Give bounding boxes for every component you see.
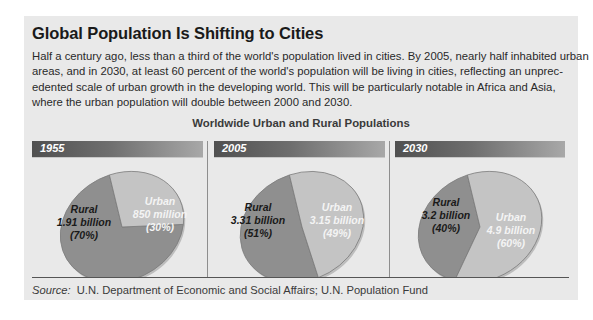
source-note: Source: U.N. Department of Economic and … bbox=[32, 284, 428, 296]
intro-line: Half a century ago, less than a third of… bbox=[32, 49, 577, 64]
pie-label-line: Rural bbox=[245, 201, 273, 213]
source-label: Source: bbox=[32, 284, 71, 296]
intro-paragraph: Half a century ago, less than a third of… bbox=[32, 49, 577, 110]
pie-label-line: (49%) bbox=[323, 227, 352, 239]
pie-label-line: (30%) bbox=[146, 221, 175, 233]
pie-label-line: 3.15 billion bbox=[310, 214, 364, 226]
infographic-panel: Global Population Is Shifting to Cities … bbox=[24, 16, 578, 300]
intro-line: where the urban population will double b… bbox=[32, 95, 577, 110]
pie-label-line: (70%) bbox=[70, 229, 99, 241]
bottom-divider bbox=[32, 277, 569, 278]
pie-chart-2030: Rural3.2 billion(40%)Urban4.9 billion(60… bbox=[395, 141, 569, 277]
pie-label-line: Urban bbox=[496, 211, 526, 223]
source-text: U.N. Department of Economic and Social A… bbox=[77, 284, 428, 296]
pie-chart-2005: Rural3.31 billion(51%)Urban3.15 billion(… bbox=[214, 141, 389, 277]
pie-chart-1955: Rural1.91 billion(70%)Urban850 million(3… bbox=[32, 141, 207, 277]
pie-label-line: Urban bbox=[145, 195, 175, 207]
pie-label-line: (60%) bbox=[497, 237, 526, 249]
intro-line: areas, and in 2030, at least 60 percent … bbox=[32, 64, 577, 79]
pie-label-line: Rural bbox=[71, 203, 99, 215]
pie-label-line: 3.31 billion bbox=[231, 214, 285, 226]
pie-label-line: 4.9 billion bbox=[486, 224, 535, 236]
intro-line: edented scale of urban growth in the dev… bbox=[32, 80, 577, 95]
pie-label-line: Rural bbox=[433, 196, 461, 208]
pie-label-line: (40%) bbox=[432, 222, 461, 234]
pie-label-line: 3.2 billion bbox=[422, 209, 470, 221]
pie-label-line: 1.91 billion bbox=[57, 216, 111, 228]
pie-label-line: (51%) bbox=[244, 227, 273, 239]
pie-label-line: Urban bbox=[322, 201, 352, 213]
chart-title: Worldwide Urban and Rural Populations bbox=[24, 117, 578, 129]
pie-panels: 1955 Rural1.91 billion(70%)Urban850 mill… bbox=[32, 141, 569, 277]
pie-panel-1955: 1955 Rural1.91 billion(70%)Urban850 mill… bbox=[32, 141, 208, 277]
pie-panel-2030: 2030 Rural3.2 billion(40%)Urban4.9 billi… bbox=[395, 141, 569, 277]
pie-panel-2005: 2005 Rural3.31 billion(51%)Urban3.15 bil… bbox=[214, 141, 390, 277]
pie-label-line: 850 million bbox=[133, 208, 187, 220]
page-title: Global Population Is Shifting to Cities bbox=[32, 24, 323, 43]
